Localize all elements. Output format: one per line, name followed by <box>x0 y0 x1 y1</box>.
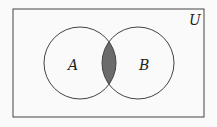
venn-diagram: A B U <box>0 0 217 127</box>
universe-label: U <box>189 12 202 28</box>
set-b-label: B <box>138 57 149 73</box>
set-a-label: A <box>66 57 78 73</box>
